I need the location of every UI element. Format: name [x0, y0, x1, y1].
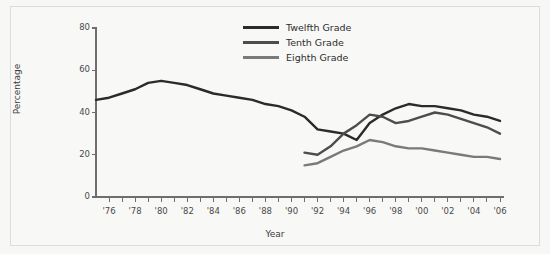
- chart-figure: 020406080 '76'78'80'82'84'86'88'90'92'94…: [0, 0, 550, 254]
- x-tick-label: '82: [175, 206, 199, 216]
- y-tick-label: 20: [48, 149, 90, 159]
- series-layer: [96, 81, 500, 166]
- x-tick-label: '96: [358, 206, 382, 216]
- x-axis-title: Year: [0, 229, 550, 239]
- legend-label: Eighth Grade: [286, 52, 348, 63]
- y-tick-label: 80: [48, 22, 90, 32]
- x-tick-label: '78: [123, 206, 147, 216]
- x-tick-label: '06: [488, 206, 512, 216]
- chart-legend: Twelfth Grade Tenth Grade Eighth Grade: [243, 20, 351, 65]
- series-line-twelfth-grade: [96, 81, 500, 140]
- x-tick-label: '86: [227, 206, 251, 216]
- x-tick-label: '88: [253, 206, 277, 216]
- legend-item[interactable]: Tenth Grade: [243, 35, 351, 50]
- y-tick-label: 40: [48, 107, 90, 117]
- y-axis-title: Percentage: [12, 44, 22, 134]
- legend-swatch-eighth: [243, 56, 279, 59]
- legend-label: Tenth Grade: [286, 37, 344, 48]
- x-tick-label: '94: [332, 206, 356, 216]
- x-tick-label: '84: [201, 206, 225, 216]
- x-tick-label: '02: [436, 206, 460, 216]
- y-tick-label: 0: [48, 191, 90, 201]
- y-tick-label: 60: [48, 64, 90, 74]
- x-tick-label: '92: [306, 206, 330, 216]
- x-tick-label: '04: [462, 206, 486, 216]
- legend-label: Twelfth Grade: [286, 22, 351, 33]
- x-tick-label: '90: [279, 206, 303, 216]
- x-tick-label: '98: [384, 206, 408, 216]
- x-tick-label: '00: [410, 206, 434, 216]
- legend-item[interactable]: Twelfth Grade: [243, 20, 351, 35]
- legend-swatch-tenth: [243, 41, 279, 44]
- legend-item[interactable]: Eighth Grade: [243, 50, 351, 65]
- x-tick-label: '76: [97, 206, 121, 216]
- x-tick-label: '80: [149, 206, 173, 216]
- legend-swatch-twelfth: [243, 26, 279, 29]
